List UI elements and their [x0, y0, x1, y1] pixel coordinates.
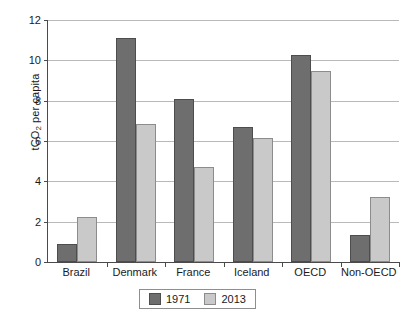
bar-denmark-1971 [116, 38, 136, 262]
x-axis-tick-label: OECD [294, 266, 326, 278]
bar-chart: tCO2 per capita 024681012 BrazilDenmarkF… [0, 0, 414, 321]
y-axis-tick-label: 0 [35, 256, 41, 268]
y-axis-tick-label: 12 [29, 14, 41, 26]
bar-france-2013 [194, 167, 214, 262]
legend-item-1971: 1971 [149, 293, 190, 305]
bar-denmark-2013 [136, 124, 156, 262]
bar-oecd-2013 [311, 71, 331, 262]
legend-swatch-1971-icon [149, 293, 161, 305]
bar-group [341, 20, 400, 262]
x-axis-tick-mark [399, 262, 400, 267]
y-axis-tick-label: 10 [29, 54, 41, 66]
bar-oecd-1971 [291, 55, 311, 262]
bar-brazil-2013 [77, 217, 97, 262]
legend-swatch-2013-icon [204, 293, 216, 305]
x-axis-tick-label: Brazil [62, 266, 90, 278]
x-axis-tick-label: Non-OECD [341, 266, 397, 278]
y-axis-tick-label: 2 [35, 216, 41, 228]
legend-label-1971: 1971 [166, 293, 190, 305]
bar-brazil-1971 [57, 244, 77, 262]
bar-group [107, 20, 166, 262]
x-axis-tick-mark [107, 262, 108, 267]
bar-non-oecd-2013 [370, 197, 390, 262]
bar-group [282, 20, 341, 262]
x-axis-tick-mark [282, 262, 283, 267]
x-axis-tick-mark [224, 262, 225, 267]
bar-iceland-2013 [253, 138, 273, 262]
bar-france-1971 [174, 99, 194, 262]
y-axis-tick-label: 8 [35, 95, 41, 107]
bar-group [165, 20, 224, 262]
y-axis-tick-label: 4 [35, 175, 41, 187]
y-axis-tick-mark [44, 262, 48, 263]
legend-item-2013: 2013 [204, 293, 245, 305]
y-axis-tick-label: 6 [35, 135, 41, 147]
x-axis-tick-mark [165, 262, 166, 267]
legend-label-2013: 2013 [221, 293, 245, 305]
plot-area: 024681012 [47, 20, 399, 263]
y-axis-title-subscript: 2 [34, 126, 43, 131]
bar-group [224, 20, 283, 262]
bar-group [48, 20, 107, 262]
legend: 1971 2013 [139, 289, 256, 309]
bar-non-oecd-1971 [350, 235, 370, 262]
x-axis-tick-label: Iceland [234, 266, 269, 278]
x-axis-tick-label: France [176, 266, 210, 278]
x-axis-tick-label: Denmark [112, 266, 157, 278]
bar-iceland-1971 [233, 127, 253, 262]
